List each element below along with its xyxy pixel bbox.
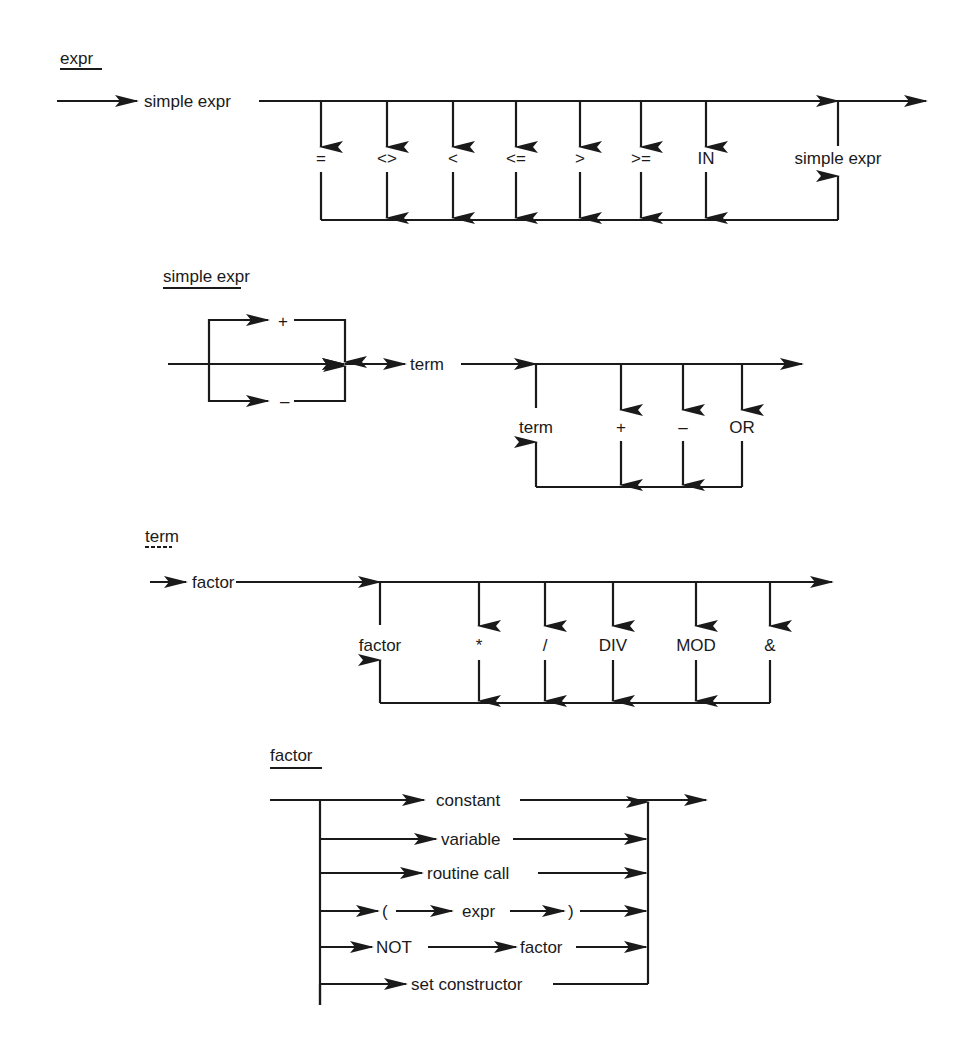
op-ge: >= <box>631 149 651 168</box>
op-lt: < <box>448 149 458 168</box>
alt-constant: constant <box>436 791 501 810</box>
term-entry-label: factor <box>192 573 235 592</box>
op-eq: = <box>316 149 326 168</box>
sign-plus: + <box>278 312 288 331</box>
factor-title: factor <box>270 746 313 765</box>
op-ne: <> <box>377 149 397 168</box>
op-le: <= <box>506 149 526 168</box>
expr-return-label: simple expr <box>795 149 882 168</box>
not-operand: factor <box>520 938 563 957</box>
op-in: IN <box>698 149 715 168</box>
loop-factor-label: factor <box>359 636 402 655</box>
paren-open: ( <box>382 902 388 921</box>
paren-expr: expr <box>462 902 495 921</box>
op-gt: > <box>575 149 585 168</box>
op-minus: – <box>678 418 688 437</box>
simple-expr-diagram: simple expr + – term term + – OR <box>163 267 802 487</box>
simple-expr-main-label: term <box>410 355 444 374</box>
op-div: DIV <box>599 636 628 655</box>
minus-branch <box>209 364 268 401</box>
op-and: & <box>764 636 776 655</box>
alt-not: NOT <box>376 938 412 957</box>
operator-labels: = <> < <= > >= IN <box>316 149 714 168</box>
paren-close: ) <box>568 902 574 921</box>
plus-branch <box>209 320 268 364</box>
alt-variable: variable <box>441 830 501 849</box>
alt-routine-call: routine call <box>427 864 509 883</box>
expr-diagram: expr simple expr = <> < <= > <box>57 49 926 220</box>
term-diagram: term factor factor * / DIV MOD & <box>145 527 832 703</box>
loop-term-label: term <box>519 418 553 437</box>
op-div-slash: / <box>543 636 548 655</box>
op-mul: * <box>476 636 483 655</box>
alt-set-constructor: set constructor <box>411 975 523 994</box>
simple-expr-title: simple expr <box>163 267 250 286</box>
op-mod: MOD <box>676 636 716 655</box>
op-plus: + <box>616 418 626 437</box>
plus-merge <box>294 320 345 362</box>
syntax-diagram-canvas: expr simple expr = <> < <= > <box>0 0 978 1038</box>
term-title: term <box>145 527 179 546</box>
expr-entry-label: simple expr <box>144 92 231 111</box>
expr-title: expr <box>60 49 93 68</box>
op-or: OR <box>729 418 755 437</box>
factor-diagram: factor constant variable routine call ( … <box>270 746 706 1005</box>
minus-merge <box>294 366 345 401</box>
sign-minus: – <box>280 392 290 411</box>
